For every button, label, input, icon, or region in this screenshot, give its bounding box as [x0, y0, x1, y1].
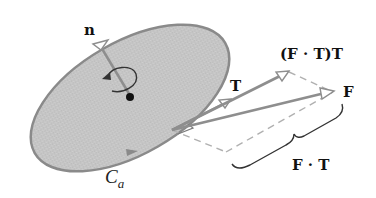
projection-arrowhead-icon [276, 71, 289, 81]
label-scalar-projection: F · T [292, 156, 330, 174]
label-T: T [230, 77, 242, 95]
label-curve-subscript: a [118, 176, 125, 191]
label-n: n [84, 21, 95, 39]
label-F: F [343, 83, 354, 101]
center-point [126, 93, 134, 101]
label-projection-vector: (F · T)T [280, 45, 344, 63]
label-curve: Ca [105, 166, 125, 191]
label-curve-main: C [105, 166, 118, 187]
force-arrowhead-icon [320, 88, 334, 99]
circulation-diagram: n T (F · T)T F F · T Ca [0, 0, 376, 198]
